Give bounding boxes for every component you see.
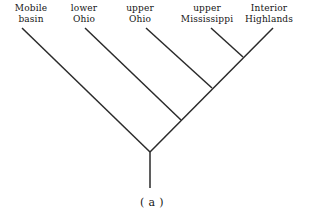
branch-interior-highlands — [150, 28, 273, 152]
panel-caption: ( a ) — [140, 196, 164, 209]
branch-upper-ohio — [146, 28, 212, 88]
branch-mobile-basin — [22, 28, 150, 152]
cladogram-figure: Mobile basin lower Ohio upper Ohio upper… — [0, 0, 310, 217]
branch-lower-ohio — [85, 28, 181, 120]
branch-upper-mississippi — [211, 28, 243, 57]
cladogram-branches — [0, 0, 310, 217]
